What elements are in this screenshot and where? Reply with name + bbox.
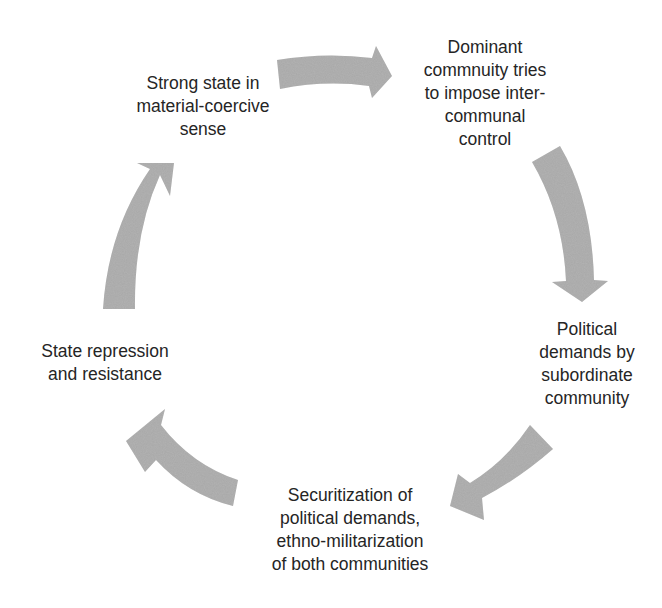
node-strong-state: Strong state in material-coercive sense: [108, 72, 298, 141]
node-dominant-community: Dominant commnuity tries to impose inter…: [390, 36, 580, 151]
arrow-n3-to-n4: [450, 425, 553, 520]
arrow-n5-to-n1: [103, 163, 174, 309]
node-securitization: Securitization of political demands, eth…: [245, 484, 455, 576]
node-political-demands: Political demands by subordinate communi…: [512, 318, 662, 410]
arrow-n2-to-n3: [532, 146, 608, 302]
node-state-repression: State repression and resistance: [10, 340, 200, 386]
arrow-n4-to-n5: [126, 409, 238, 506]
